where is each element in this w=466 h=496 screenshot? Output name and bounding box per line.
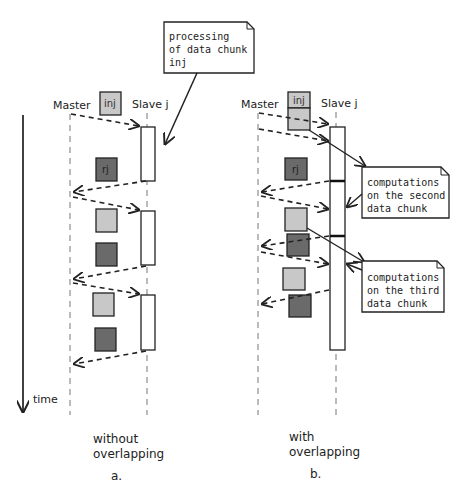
callout-line-1: processing [169, 31, 229, 42]
caption-line-2: overlapping [289, 445, 360, 459]
callout-processing: processing of data chunk inj [164, 22, 254, 144]
callout-line-1: computations [367, 272, 439, 283]
result-chunk-box-2 [287, 234, 309, 256]
slave-activity-bar [330, 127, 345, 350]
return-message-arrow-3 [74, 351, 146, 364]
caption-line-2: overlapping [93, 447, 164, 461]
master-slave-timing-diagram: time Master Slave j inj rj [0, 0, 466, 496]
panel-b-with-overlapping: Master Slave j inj rj [241, 92, 449, 481]
caption-line-1: without [93, 432, 138, 446]
callout-pointer-arrow [347, 194, 362, 207]
callout-line-2: on the third [367, 285, 439, 296]
input-chunk-box-4 [283, 268, 305, 290]
slave-label: Slave j [321, 97, 358, 110]
panel-letter: b. [310, 467, 321, 481]
result-chunk-label: rj [292, 164, 299, 175]
return-message-arrow-1 [262, 181, 329, 192]
callout-line-2: of data chunk [169, 44, 247, 55]
time-label: time [33, 393, 58, 406]
input-chunk-label: inj [293, 95, 305, 106]
return-message-arrow-1 [74, 181, 146, 192]
slave-activity-bar-3 [141, 295, 155, 350]
time-axis: time [23, 115, 58, 412]
slave-activity-bar-2 [141, 211, 155, 265]
return-message-arrow-2 [74, 266, 146, 279]
master-label: Master [241, 98, 279, 111]
callout-pointer-arrow [165, 73, 197, 144]
callout-line-3: inj [169, 57, 187, 68]
callout-line-2: on the second [367, 190, 445, 201]
send-message-arrow-2 [73, 197, 139, 210]
callout-third-chunk: computations on the third data chunk [347, 261, 444, 312]
send-message-arrow-1 [71, 114, 139, 126]
panel-letter: a. [111, 469, 122, 483]
input-chunk-box-3 [93, 293, 114, 316]
slave-activity-bar-1 [141, 127, 155, 181]
callout-pointer-arrow [347, 264, 362, 270]
panel-a-without-overlapping: Master Slave j inj rj [53, 22, 254, 483]
callout-line-3: data chunk [367, 203, 427, 214]
callout-line-1: computations [367, 177, 439, 188]
callout-second-chunk: computations on the second data chunk [347, 167, 449, 218]
slave-label: Slave j [132, 98, 169, 111]
send-message-arrow-3 [261, 196, 328, 209]
callout-line-3: data chunk [367, 298, 427, 309]
input-chunk-label: inj [104, 98, 116, 109]
input-chunk-box-2 [96, 209, 117, 232]
input-chunk-box-3 [285, 208, 307, 231]
master-label: Master [53, 99, 91, 112]
result-chunk-label: rj [102, 164, 109, 175]
caption-line-1: with [289, 430, 314, 444]
result-chunk-box-3 [95, 328, 116, 351]
result-chunk-box-2 [96, 243, 117, 266]
